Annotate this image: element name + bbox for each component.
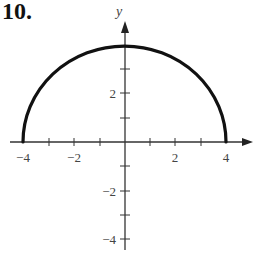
y-tick-label-2: 2 bbox=[110, 86, 117, 101]
semicircle-graph: y −4 −2 2 4 2 −2 −4 bbox=[0, 0, 256, 254]
y-axis-label: y bbox=[114, 4, 123, 19]
x-tick-label-4: 4 bbox=[223, 150, 230, 165]
x-tick-label-neg4: −4 bbox=[16, 150, 30, 165]
x-tick-label-neg2: −2 bbox=[67, 150, 81, 165]
y-tick-label-neg4: −4 bbox=[102, 232, 116, 247]
x-tick-label-2: 2 bbox=[172, 150, 179, 165]
x-axis-arrow-icon bbox=[242, 138, 253, 146]
y-axis-arrow-icon bbox=[121, 21, 129, 33]
y-tick-label-neg2: −2 bbox=[102, 184, 116, 199]
